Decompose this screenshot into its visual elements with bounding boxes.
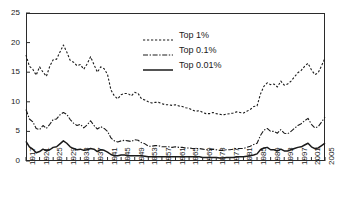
x-tick-label: 1961 [179,147,187,165]
legend-item: Top 0.01% [143,58,222,73]
x-tick-label: 1981 [246,147,254,165]
x-tick-label: 1993 [287,147,295,165]
legend-line-swatch [143,46,173,56]
legend-label: Top 0.01% [179,61,222,70]
x-tick-label: 1953 [151,147,159,165]
legend-item: Top 0.1% [143,43,222,58]
x-tick-label: 1921 [43,147,51,165]
legend-item: Top 1% [143,28,222,43]
x-tick-label: 2005 [328,147,336,165]
x-tick-label: 1933 [83,147,91,165]
x-tick-label: 1957 [165,147,173,165]
chart-container: 0510152025 19171921192519291933193719411… [0,0,338,197]
legend-label: Top 0.1% [179,46,217,55]
x-tick-label: 1925 [56,147,64,165]
x-tick-label: 1929 [70,147,78,165]
x-tick-label: 1989 [274,147,282,165]
x-tick-label: 1937 [97,147,105,165]
x-tick-label: 1965 [192,147,200,165]
x-tick-label: 2001 [314,147,322,165]
x-tick-label: 1977 [233,147,241,165]
x-tick-label: 1941 [111,147,119,165]
x-tick-label: 1969 [206,147,214,165]
x-tick-label: 1985 [260,147,268,165]
x-tick-label: 1973 [219,147,227,165]
legend-label: Top 1% [179,31,209,40]
x-tick-label: 1997 [301,147,309,165]
legend-line-swatch [143,31,173,41]
chart-legend: Top 1%Top 0.1%Top 0.01% [143,28,222,73]
x-tick-label: 1945 [124,147,132,165]
x-tick-label: 1949 [138,147,146,165]
x-tick-label: 1917 [29,147,37,165]
legend-line-swatch [143,61,173,71]
